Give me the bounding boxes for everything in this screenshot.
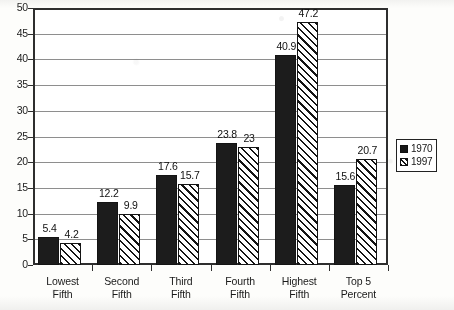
x-category-label: Top 5Percent — [329, 275, 388, 300]
bar-value-label: 20.7 — [354, 144, 381, 156]
bar-chart: 50454035302520151050 5.44.212.29.917.615… — [0, 0, 454, 310]
x-tick-mark — [151, 265, 152, 271]
y-tick-mark — [28, 265, 33, 266]
y-tick-label: 50 — [2, 1, 28, 13]
bar-value-label: 40.9 — [273, 40, 300, 52]
y-tick-label: 15 — [2, 181, 28, 193]
chart-legend: 1970 1997 — [396, 139, 437, 172]
hatched-swatch-icon — [400, 158, 408, 166]
bar-1970-second-fifth — [97, 202, 118, 265]
legend-label-1970: 1970 — [411, 143, 432, 154]
bar-value-label: 9.9 — [117, 199, 144, 211]
x-category-label: HighestFifth — [270, 275, 329, 300]
y-tick-label: 20 — [2, 155, 28, 167]
legend-item-1997: 1997 — [400, 155, 432, 168]
bar-1970-top-5-percent — [334, 185, 355, 265]
y-tick-label: 30 — [2, 104, 28, 116]
x-tick-mark — [211, 265, 212, 271]
bar-1970-lowest-fifth — [38, 237, 59, 265]
bar-1970-highest-fifth — [275, 55, 296, 265]
x-tick-mark — [270, 265, 271, 271]
bar-value-label: 15.7 — [176, 169, 203, 181]
bars-layer — [33, 8, 388, 265]
y-tick-label: 5 — [2, 232, 28, 244]
bar-1997-fourth-fifth — [238, 147, 259, 265]
solid-black-swatch-icon — [400, 145, 408, 153]
bar-value-label: 12.2 — [95, 187, 122, 199]
y-tick-label: 25 — [2, 130, 28, 142]
legend-label-1997: 1997 — [411, 156, 432, 167]
bar-value-label: 23 — [236, 132, 263, 144]
x-tick-mark — [92, 265, 93, 271]
bar-1997-second-fifth — [119, 214, 140, 265]
x-category-label: LowestFifth — [33, 275, 92, 300]
bar-value-label: 4.2 — [58, 228, 85, 240]
y-tick-label: 0 — [2, 258, 28, 270]
x-category-label: ThirdFifth — [151, 275, 210, 300]
x-category-label: SecondFifth — [92, 275, 151, 300]
y-tick-label: 35 — [2, 78, 28, 90]
y-tick-label: 10 — [2, 207, 28, 219]
bar-1997-top-5-percent — [356, 159, 377, 265]
bar-value-label: 15.6 — [332, 170, 359, 182]
x-tick-mark — [329, 265, 330, 271]
x-tick-mark — [388, 265, 389, 271]
bar-1970-fourth-fifth — [216, 143, 237, 265]
bar-value-label: 47.2 — [295, 7, 322, 19]
scan-artifact-top — [0, 0, 454, 8]
bar-1970-third-fifth — [156, 175, 177, 265]
y-tick-label: 40 — [2, 52, 28, 64]
bar-1997-highest-fifth — [297, 22, 318, 265]
bar-1997-third-fifth — [178, 184, 199, 265]
bar-1997-lowest-fifth — [60, 243, 81, 265]
y-tick-label: 45 — [2, 27, 28, 39]
legend-item-1970: 1970 — [400, 142, 432, 155]
x-category-label: FourthFifth — [211, 275, 270, 300]
